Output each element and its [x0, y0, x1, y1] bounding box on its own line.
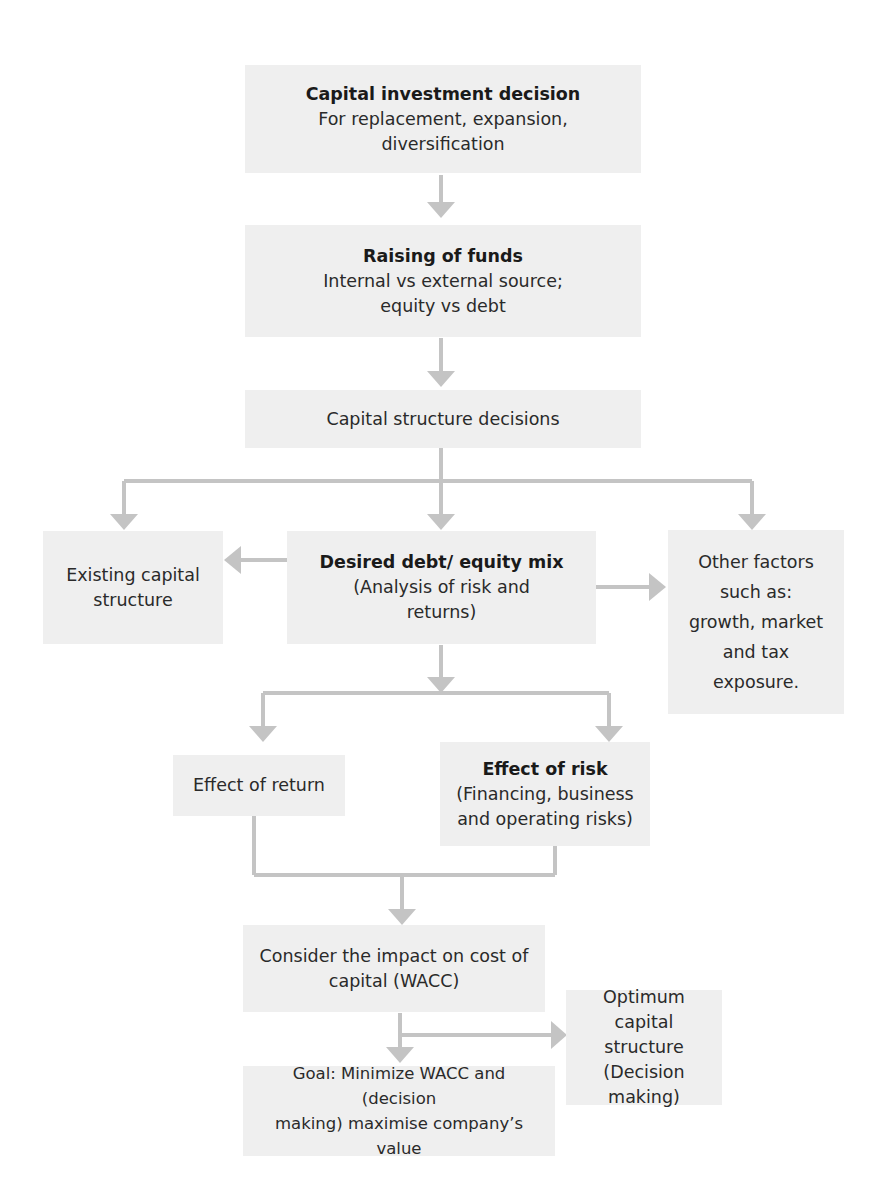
node-desired-debt-equity-mix: Desired debt/ equity mix (Analysis of ri… — [287, 531, 596, 644]
node-text: growth, market — [689, 607, 823, 637]
node-existing-capital-structure: Existing capital structure — [43, 531, 223, 644]
node-text: Internal vs external source; — [323, 269, 563, 294]
node-text: Optimum — [603, 985, 685, 1010]
node-text: returns) — [407, 600, 476, 625]
node-other-factors: Other factors such as: growth, market an… — [668, 530, 844, 714]
node-optimum-capital-structure: Optimum capital structure (Decision maki… — [566, 990, 722, 1105]
node-text: Capital structure decisions — [326, 407, 559, 432]
node-title: Raising of funds — [363, 244, 523, 269]
node-title: Desired debt/ equity mix — [320, 550, 564, 575]
node-effect-of-return: Effect of return — [173, 755, 345, 816]
node-title: Effect of risk — [482, 757, 607, 782]
node-raising-of-funds: Raising of funds Internal vs external so… — [245, 225, 641, 337]
node-text: diversification — [381, 132, 504, 157]
node-text: structure — [93, 588, 172, 613]
node-text: Existing capital — [66, 563, 200, 588]
node-title: Capital investment decision — [306, 82, 581, 107]
node-text: and operating risks) — [457, 807, 633, 832]
node-text: Consider the impact on cost of — [260, 944, 529, 969]
node-cost-of-capital: Consider the impact on cost of capital (… — [243, 925, 545, 1012]
node-text: making) maximise company’s value — [253, 1111, 545, 1161]
node-capital-investment-decision: Capital investment decision For replacem… — [245, 65, 641, 173]
node-text: (Analysis of risk and — [353, 575, 530, 600]
node-text: exposure. — [713, 667, 799, 697]
node-text: For replacement, expansion, — [318, 107, 568, 132]
node-text: capital (WACC) — [329, 969, 459, 994]
node-text: Other factors — [698, 547, 814, 577]
node-text: and tax — [723, 637, 789, 667]
node-text: Goal: Minimize WACC and (decision — [253, 1061, 545, 1111]
node-effect-of-risk: Effect of risk (Financing, business and … — [440, 742, 650, 846]
node-text: such as: — [720, 577, 792, 607]
node-text: Effect of return — [193, 773, 325, 798]
node-goal: Goal: Minimize WACC and (decision making… — [243, 1066, 555, 1156]
node-text: capital structure — [576, 1010, 712, 1060]
node-text: equity vs debt — [380, 294, 506, 319]
node-text: (Decision making) — [576, 1060, 712, 1110]
node-text: (Financing, business — [456, 782, 633, 807]
node-capital-structure-decisions: Capital structure decisions — [245, 390, 641, 448]
